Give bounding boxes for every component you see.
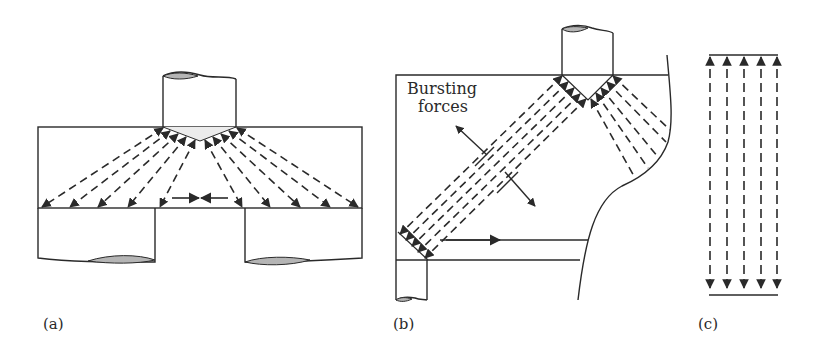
bursting-forces-label-line1: Bursting [407, 81, 477, 97]
struts-b-right [591, 76, 670, 178]
support-left-a [38, 208, 155, 263]
panel-label-a: (a) [43, 317, 64, 332]
panel-b [396, 26, 671, 302]
column-bottom-b [396, 260, 427, 301]
bursting-forces-label-line2: forces [418, 99, 468, 115]
panel-a [38, 72, 362, 265]
struts-c [710, 57, 777, 288]
panel-c [709, 55, 778, 295]
panel-label-c: (c) [698, 317, 718, 332]
strut-and-tie-figure: (a) (b) (c) Bursting forces [0, 0, 815, 362]
support-right-a [245, 208, 362, 265]
node-wedge-a [163, 127, 236, 141]
curved-edge-b [578, 55, 671, 300]
column-top-a [163, 72, 236, 127]
panel-label-b: (b) [393, 317, 414, 332]
column-top-b [562, 26, 613, 76]
